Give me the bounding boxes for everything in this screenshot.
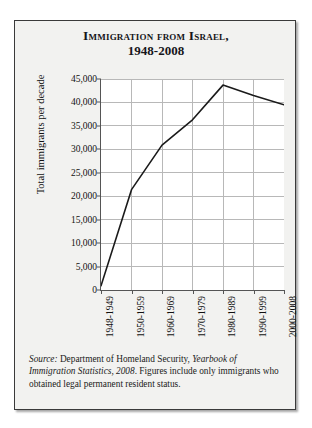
y-tick-label: 25,000 (71, 168, 97, 178)
y-tick-label: 40,000 (71, 97, 97, 107)
source-note: Source: Department of Homeland Security,… (29, 353, 283, 390)
y-tick-label: 35,000 (71, 121, 97, 131)
x-tick-label: 1990-1999 (258, 296, 268, 337)
x-tick-mark (223, 290, 224, 294)
y-tick-label: 30,000 (71, 144, 97, 154)
x-tick-mark (254, 290, 255, 294)
x-tick-mark (193, 290, 194, 294)
y-tick-mark (97, 149, 101, 150)
y-tick-label: 20,000 (71, 191, 97, 201)
y-tick-mark (97, 196, 101, 197)
x-tick-mark (101, 290, 102, 294)
x-tick-label: 1950-1959 (136, 296, 146, 337)
x-tick-mark (162, 290, 163, 294)
y-tick-mark (97, 172, 101, 173)
y-tick-mark (97, 125, 101, 126)
x-tick-label: 1980-1989 (227, 296, 237, 337)
y-tick-label: 15,000 (71, 215, 97, 225)
y-tick-mark (97, 79, 101, 80)
x-tick-mark (284, 290, 285, 294)
y-tick-label: 10,000 (71, 238, 97, 248)
data-series-line (101, 79, 284, 290)
figure-panel: Immigration from Israel, 1948-2008 Total… (14, 20, 296, 410)
x-tick-label: 2000-2008 (288, 296, 298, 337)
x-tick-mark (132, 290, 133, 294)
y-tick-mark (97, 266, 101, 267)
y-axis-title: Total immigrants per decade (35, 55, 46, 215)
x-tick-label: 1960-1969 (166, 296, 176, 337)
x-tick-label: 1970-1979 (197, 296, 207, 337)
y-tick-label: 45,000 (71, 74, 97, 84)
y-tick-mark (97, 219, 101, 220)
y-tick-label: 5,000 (76, 262, 97, 272)
plot-area: 05,00010,00015,00020,00025,00030,00035,0… (100, 79, 284, 291)
source-agency: Department of Homeland Security, (58, 354, 193, 364)
source-label: Source: (29, 354, 58, 364)
x-tick-label: 1948-1949 (105, 296, 115, 337)
y-tick-mark (97, 102, 101, 103)
y-tick-mark (97, 243, 101, 244)
